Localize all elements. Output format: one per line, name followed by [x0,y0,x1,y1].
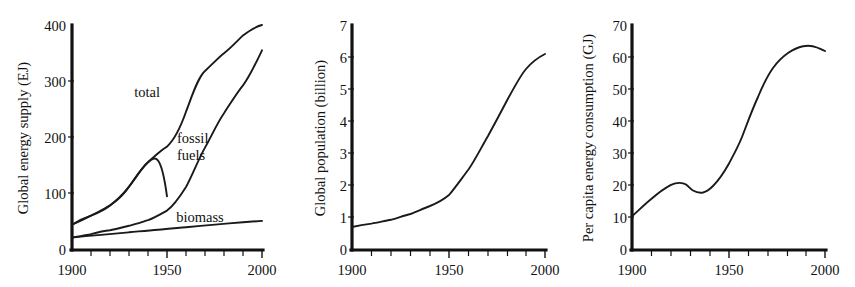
y-tick-label-2: 2 [340,178,347,194]
y-tick-label-10: 10 [613,210,628,226]
y-tick-label-5: 5 [340,82,347,98]
y-axis-title: Global energy supply (EJ) [15,62,32,215]
y-tick-label-70: 70 [613,18,628,34]
y-tick-label-300: 300 [44,74,66,90]
y-tick-label-4: 4 [340,114,348,130]
chart-svg-2: Global population (billion) 7 6 5 4 3 2 … [285,0,570,287]
y-tick-label-6: 6 [340,50,347,66]
y-tick-label-7: 7 [340,18,347,34]
line-per-capita-energy [632,46,825,217]
x-tick-label-1900: 1900 [58,262,87,278]
line-biomass [72,221,262,238]
chart-svg-1: Global energy supply (EJ) 400 300 200 10… [0,0,285,287]
y-axis-title: Global population (billion) [312,60,329,216]
y-tick-label-200: 200 [44,130,66,146]
chart-panel-global-population: Global population (billion) 7 6 5 4 3 2 … [285,0,570,287]
y-tick-label-50: 50 [613,82,628,98]
x-tick-label-2000: 2000 [811,262,840,278]
y-tick-label-400: 400 [44,18,66,34]
curve-label-fossil-line2: fuels [177,147,206,163]
series-line-total [72,159,167,225]
curve-label-total: total [134,84,160,100]
x-tick-label-1900: 1900 [618,262,647,278]
y-tick-label-100: 100 [44,186,66,202]
y-tick-label-40: 40 [613,114,628,130]
chart-panel-per-capita-energy: Per capita energy consumption (GJ) 70 60… [570,0,855,287]
x-tick-label-1950: 1950 [153,262,182,278]
curve-label-biomass: biomass [176,209,224,225]
x-tick-label-1950: 1950 [435,262,464,278]
y-axis-title: Per capita energy consumption (GJ) [580,34,597,242]
y-tick-label-0: 0 [59,242,66,258]
x-tick-label-2000: 2000 [248,262,277,278]
x-tick-label-1950: 1950 [715,262,744,278]
y-tick-label-3: 3 [340,146,347,162]
chart-svg-3: Per capita energy consumption (GJ) 70 60… [570,0,855,287]
y-tick-label-0: 0 [340,242,347,258]
chart-panel-global-energy-supply: Global energy supply (EJ) 400 300 200 10… [0,0,285,287]
y-tick-label-60: 60 [613,50,628,66]
line-global-population [352,54,545,227]
curve-label-fossil-line1: fossil [177,130,208,146]
y-tick-label-30: 30 [613,146,628,162]
y-tick-label-1: 1 [340,210,347,226]
y-tick-label-0: 0 [620,242,627,258]
three-panel-line-chart-figure: Global energy supply (EJ) 400 300 200 10… [0,0,855,287]
line-fossil-fuels-render [72,50,262,237]
x-tick-label-1900: 1900 [338,262,367,278]
x-tick-label-2000: 2000 [531,262,560,278]
y-tick-label-20: 20 [613,178,628,194]
